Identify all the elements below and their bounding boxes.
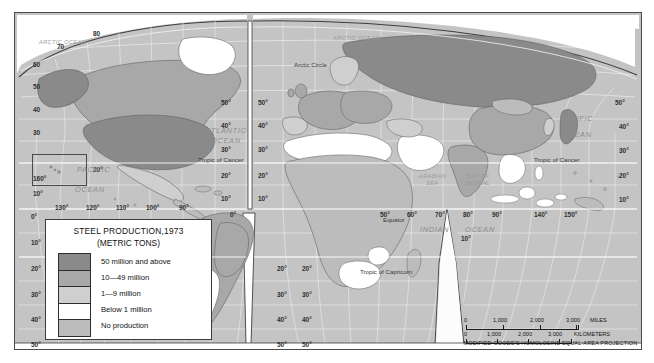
land-south-africa [339,261,381,289]
sea-label-bay-of-bengal-2: BENGAL [465,180,490,186]
land-southeast-asia [499,154,525,183]
ocean-label-pacific-east: PACIFIC [560,114,593,123]
lat-label-0-atl: 0° [230,211,236,218]
land-brazil [214,222,248,276]
land-iberia [283,117,308,135]
map-legend: STEEL PRODUCTION,1973 (METRIC TONS) 50 m… [45,219,212,340]
legend-label-1-9m: 1—9 million [101,289,141,298]
lat-label-80n: 80 [93,30,100,37]
lat-label-30s-left: 30° [31,291,41,298]
sea-label-arabian: ARABIAN [419,173,446,179]
lat-label-20n-afr: 20° [258,172,268,179]
line-label-tropic-cancer-west: Tropic of Cancer [198,156,244,163]
land-united-states [83,115,214,170]
scale-miles-tick-1000: 1,000 [493,317,507,323]
lat-label-50s-afr: 50° [302,341,312,348]
lat-label-20s-afr: 20° [302,265,312,272]
scale-km-unit: KILOMETERS [574,331,610,337]
legend-swatch-no-production [59,320,90,336]
legend-title-line2: (METRIC TONS) [46,238,211,248]
lat-label-40n-afr: 40° [258,122,268,129]
lat-label-50s-sam: 50° [277,341,287,348]
lat-label-30n: 30 [33,129,40,136]
lon-label-90e: 90° [492,211,502,218]
ocean-label-atlantic: ATLANTIC [206,126,247,135]
lon-label-100w: 100° [146,204,159,211]
sea-label-bay-of-bengal: BAY OF [467,173,489,179]
lat-label-20n-right: 20° [619,172,629,179]
lon-label-130w: 130° [55,204,68,211]
map-page: 80 70 60 50 40 30 160° 20° 10° 0° 10° 20… [0,0,654,363]
legend-label-10-49m: 10—49 million [101,273,149,282]
lat-label-10n-right: 10° [619,196,629,203]
legend-label-50m-above: 50 million and above [101,257,171,266]
legend-title-line1: STEEL PRODUCTION,1973 [46,226,211,236]
lat-label-10s-left: 10° [31,239,41,246]
scale-miles-tick-3000: 3,000 [566,317,580,323]
land-british-isles [288,84,307,98]
lat-label-30n-right: 30° [619,147,629,154]
lat-label-50n-atl: 50° [221,99,231,106]
lat-label-50n: 50 [33,83,40,90]
land-eastern-europe [341,91,392,124]
scale-km-tick-0: 0 [464,331,467,337]
ocean-label-indian: INDIAN [420,225,449,234]
lat-label-20n-atl: 20° [221,172,231,179]
australia-inset: 120° 150° 160° 170° 20° 30° 40° 20° 30° … [468,226,626,311]
lat-label-20s-left: 20° [31,265,41,272]
lon-label-150e: 150° [564,211,577,218]
lon-label-110w: 110° [116,204,129,211]
lon-label-90w: 90° [179,204,189,211]
scale-km-tick-1000: 1,000 [487,331,501,337]
lat-label-10n-atl: 10° [221,195,231,202]
lon-label-60e: 60° [407,211,417,218]
lat-label-30s-sam: 30° [277,291,287,298]
lat-label-40s-left: 40° [31,316,41,323]
legend-label-below-1m: Below 1 million [101,305,152,314]
legend-label-no-production: No production [101,321,148,330]
lat-label-0-left: 0° [31,213,37,220]
ocean-label-pacific-west: PACIFIC [77,165,110,174]
lat-label-30n-atl: 30° [221,146,231,153]
land-scandinavia [330,57,359,86]
land-india [448,145,488,197]
legend-swatch-10-49m [59,271,90,288]
lat-label-20s-sam: 20° [277,265,287,272]
scale-km-tick-2000: 2,000 [518,331,532,337]
lon-label-140e: 140° [534,211,547,218]
legend-swatch-1-9m [59,287,90,304]
lat-label-50n-afr: 50° [258,99,268,106]
projection-note: MODIFIED GOODE'S HOMOLOSINE EQUAL-AREA P… [455,340,646,346]
lat-label-pacific-10: 10° [33,190,43,197]
line-label-equator: Equator [383,216,405,223]
scale-miles-unit: MILES [590,317,607,323]
scale-km-tick-3000: 3,000 [548,331,562,337]
scale-miles-tick-2000: 2,000 [530,317,544,323]
lon-label-120w: 120° [86,204,99,211]
legend-swatch-below-1m [59,304,90,321]
lat-label-40n-right: 40° [619,123,629,130]
legend-swatch-column [58,253,91,337]
lat-label-30s-afr: 30° [302,291,312,298]
lat-label-hawaii-160: 160° [33,175,46,182]
lat-label-50s-left: 50° [31,341,41,348]
lat-label-50n-right: 50° [615,99,625,106]
line-label-tropic-cancer-east: Tropic of Cancer [534,156,580,163]
ocean-label-atlantic-2: OCEAN [211,136,241,145]
legend-swatch-50m-above [59,254,90,271]
line-label-arctic-circle: Arctic Circle [294,61,327,68]
land-indonesia [491,187,567,207]
lat-label-40n: 40 [33,106,40,113]
ocean-label-pacific-east-2: OCEAN [562,130,592,139]
sea-label-arabian-2: SEA [426,180,438,186]
lat-label-60n: 60 [33,61,40,68]
land-middle-east [397,135,443,170]
land-zimbabwe [368,247,389,265]
land-philippines [535,166,543,180]
scale-bar-miles [466,325,579,330]
scale-miles-tick-0: 0 [464,317,467,323]
lon-label-70e: 70° [435,211,445,218]
land-caribbean [195,186,222,195]
lon-label-80e: 80° [463,211,473,218]
lat-label-10n-afr: 10° [258,195,268,202]
